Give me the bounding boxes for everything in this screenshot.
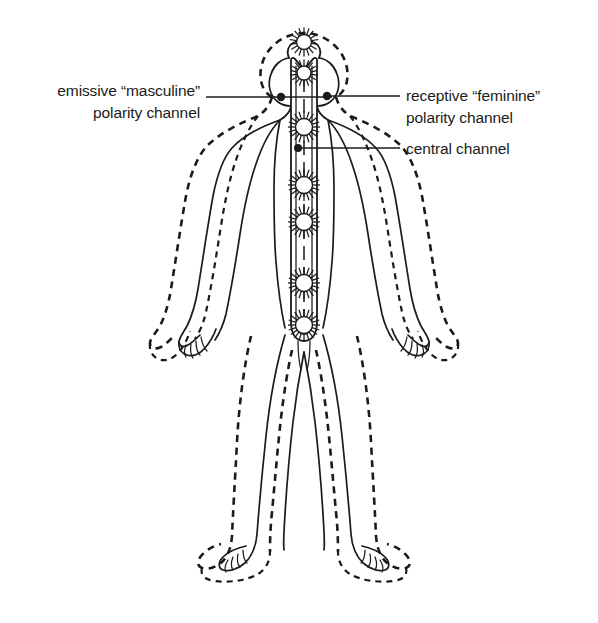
label-emissive-masculine: emissive “masculine” polarity channel xyxy=(57,82,200,121)
label-central-channel: central channel xyxy=(406,140,510,157)
label-emissive-line1: emissive “masculine” xyxy=(57,82,200,99)
dot-central-terminus xyxy=(294,144,302,152)
label-receptive-feminine: receptive “feminine” polarity channel xyxy=(406,87,540,126)
subtle-body-figure-svg: emissive “masculine” polarity channel re… xyxy=(0,0,598,623)
dot-receptive-terminus xyxy=(323,92,331,100)
label-receptive-line1: receptive “feminine” xyxy=(406,87,540,104)
label-emissive-line2: polarity channel xyxy=(93,104,200,121)
label-central-channel-line1: central channel xyxy=(406,140,510,157)
diagram-canvas: emissive “masculine” polarity channel re… xyxy=(0,0,598,623)
dot-emissive-terminus xyxy=(277,93,285,101)
label-receptive-line2: polarity channel xyxy=(406,109,513,126)
